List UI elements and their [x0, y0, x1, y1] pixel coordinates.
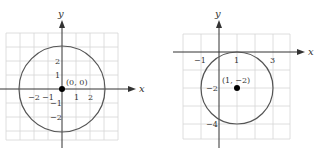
figure: x y (0, 0) −2 −1 1 2 2 1 −1 −2 x y (1, −…: [0, 0, 318, 153]
right-y-arrow-icon: [216, 20, 222, 28]
right-x-arrow-icon: [297, 49, 305, 55]
left-chart: x y (0, 0) −2 −1 1 2 2 1 −1 −2: [0, 8, 145, 148]
right-center-point: [234, 85, 240, 91]
left-x-label: x: [139, 83, 145, 94]
right-center-label: (1, −2): [222, 76, 250, 85]
left-xtick: 1: [74, 93, 79, 102]
right-xtick: −1: [194, 56, 206, 65]
left-ytick: −2: [50, 113, 62, 122]
left-xtick: 2: [88, 93, 93, 102]
left-x-arrow-icon: [128, 86, 136, 92]
left-center-point: [59, 86, 65, 92]
right-chart: x y (1, −2) −1 1 3 −2 −4: [173, 8, 314, 148]
right-xtick: 3: [270, 56, 275, 65]
right-ytick: −2: [206, 84, 218, 93]
right-x-label: x: [308, 46, 314, 57]
left-ytick: 2: [55, 57, 60, 66]
left-y-label: y: [57, 8, 64, 19]
left-y-arrow-icon: [59, 20, 65, 28]
right-xtick: 1: [234, 56, 239, 65]
right-ytick: −4: [206, 120, 218, 129]
right-y-label: y: [214, 8, 221, 19]
left-ytick: −1: [50, 99, 62, 108]
left-center-label: (0, 0): [66, 78, 88, 87]
left-xtick: −2: [28, 93, 40, 102]
left-ytick: 1: [55, 71, 60, 80]
